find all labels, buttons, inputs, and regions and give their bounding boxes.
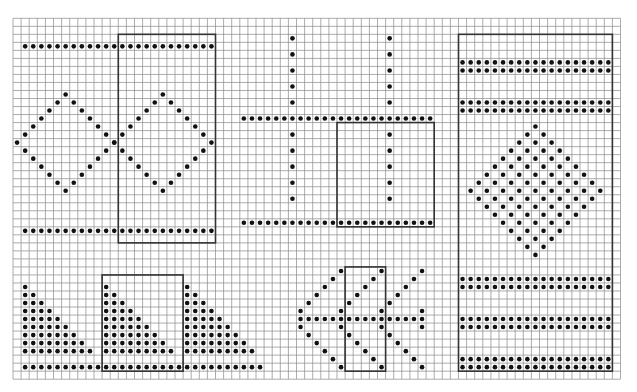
dot bbox=[420, 365, 425, 370]
dot bbox=[533, 285, 538, 290]
dot bbox=[533, 325, 538, 330]
dot bbox=[509, 180, 514, 185]
dot bbox=[525, 212, 530, 217]
dot bbox=[290, 116, 295, 121]
dot bbox=[485, 357, 490, 362]
dot bbox=[274, 116, 279, 121]
dot bbox=[88, 229, 93, 234]
dot bbox=[468, 108, 473, 113]
dot bbox=[549, 108, 554, 113]
dot bbox=[541, 365, 546, 370]
dot bbox=[549, 357, 554, 362]
dot bbox=[533, 237, 538, 242]
dot bbox=[501, 204, 506, 209]
dot bbox=[574, 108, 579, 113]
dot bbox=[169, 44, 174, 49]
dot bbox=[39, 229, 44, 234]
dot bbox=[71, 44, 76, 49]
dot bbox=[23, 132, 28, 137]
dot bbox=[476, 68, 481, 73]
dot bbox=[598, 60, 603, 65]
dot bbox=[88, 365, 93, 370]
dot bbox=[136, 116, 141, 121]
dot bbox=[233, 349, 238, 354]
dot bbox=[541, 325, 546, 330]
dot bbox=[460, 60, 465, 65]
dot bbox=[23, 349, 28, 354]
dot bbox=[517, 357, 522, 362]
dot bbox=[193, 333, 198, 338]
dot bbox=[63, 188, 68, 193]
dot bbox=[39, 325, 44, 330]
dot bbox=[541, 164, 546, 169]
dot bbox=[242, 116, 247, 121]
dot bbox=[47, 317, 52, 322]
dot bbox=[387, 148, 392, 153]
dot bbox=[209, 365, 214, 370]
dot bbox=[112, 301, 117, 306]
dot bbox=[598, 285, 603, 290]
dot bbox=[387, 36, 392, 41]
dot bbox=[112, 140, 117, 145]
dot bbox=[412, 221, 417, 226]
dot bbox=[420, 325, 425, 330]
dot bbox=[298, 317, 303, 322]
dot bbox=[209, 229, 214, 234]
dot bbox=[242, 221, 247, 226]
dot bbox=[314, 341, 319, 346]
dot bbox=[566, 108, 571, 113]
dot bbox=[525, 148, 530, 153]
dot bbox=[598, 277, 603, 282]
dot bbox=[468, 365, 473, 370]
dot bbox=[120, 365, 125, 370]
dot bbox=[217, 325, 222, 330]
dot bbox=[460, 100, 465, 105]
dot bbox=[598, 357, 603, 362]
dot bbox=[574, 357, 579, 362]
dot bbox=[485, 60, 490, 65]
dot bbox=[169, 365, 174, 370]
dot bbox=[290, 164, 295, 169]
dot bbox=[55, 341, 60, 346]
dot bbox=[468, 68, 473, 73]
dot bbox=[533, 365, 538, 370]
dot bbox=[120, 301, 125, 306]
dot bbox=[533, 204, 538, 209]
dot bbox=[80, 341, 85, 346]
dot bbox=[225, 349, 230, 354]
dot bbox=[541, 357, 546, 362]
dot bbox=[606, 317, 611, 322]
dot bbox=[525, 285, 530, 290]
dot bbox=[120, 148, 125, 153]
dot bbox=[590, 100, 595, 105]
dot bbox=[404, 317, 409, 322]
dot bbox=[339, 269, 344, 274]
dot bbox=[201, 229, 206, 234]
dot bbox=[39, 317, 44, 322]
dot bbox=[23, 44, 28, 49]
dot bbox=[23, 229, 28, 234]
dot bbox=[128, 317, 133, 322]
dot bbox=[185, 349, 190, 354]
dot bbox=[533, 60, 538, 65]
dot bbox=[549, 317, 554, 322]
dot bbox=[120, 349, 125, 354]
dot bbox=[80, 229, 85, 234]
dot bbox=[517, 100, 522, 105]
dot bbox=[557, 60, 562, 65]
dot bbox=[598, 68, 603, 73]
dot bbox=[363, 285, 368, 290]
dot bbox=[549, 100, 554, 105]
dot bbox=[525, 365, 530, 370]
dot bbox=[574, 68, 579, 73]
dot bbox=[533, 357, 538, 362]
dot bbox=[541, 229, 546, 234]
dot bbox=[485, 204, 490, 209]
dot bbox=[347, 301, 352, 306]
dot bbox=[549, 285, 554, 290]
dot bbox=[525, 277, 530, 282]
dot bbox=[501, 172, 506, 177]
dot bbox=[193, 325, 198, 330]
dot bbox=[501, 365, 506, 370]
dot bbox=[606, 60, 611, 65]
